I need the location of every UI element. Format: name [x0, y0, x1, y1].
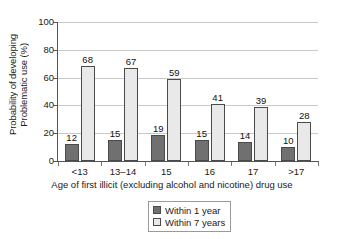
y-axis-tick-label: 80	[30, 45, 54, 55]
x-axis-tick-label: 13–14	[101, 166, 144, 177]
legend-label-within-1-year: Within 1 year	[165, 205, 220, 216]
bar-group: 1959	[145, 22, 188, 161]
legend-label-within-7-years: Within 7 years	[165, 217, 225, 228]
bar-within-7-years	[254, 107, 268, 161]
bar-group: 1028	[275, 22, 318, 161]
bar-group: 1567	[101, 22, 144, 161]
y-axis-tick-label: 20	[30, 128, 54, 138]
y-axis-tick-mark	[53, 78, 58, 79]
legend-swatch-icon-within-7-years	[153, 218, 161, 226]
bar-value-label: 67	[118, 57, 144, 67]
bar-within-7-years	[211, 104, 225, 161]
x-axis-tick-mark	[318, 162, 319, 166]
bar-value-label: 39	[248, 96, 274, 106]
y-axis-title-line-2: Problematic use (%)	[18, 43, 29, 127]
plot-area: 126815671959154114391028	[58, 22, 318, 161]
legend-item-within-7-years: Within 7 years	[153, 216, 225, 228]
x-axis-tick-label: >17	[275, 166, 318, 177]
y-axis-tick-mark	[53, 105, 58, 106]
bar-group: 1439	[231, 22, 274, 161]
x-axis-tick-label: 15	[145, 166, 188, 177]
bar-within-1-year	[65, 144, 79, 161]
bar-within-7-years	[124, 68, 138, 161]
y-axis-tick-label: 100	[30, 17, 54, 27]
x-axis-tick-label: <13	[58, 166, 101, 177]
bar-within-7-years	[81, 66, 95, 161]
y-axis-tick-label: 60	[30, 73, 54, 83]
bar-within-1-year	[108, 140, 122, 161]
y-axis-tick-mark	[53, 133, 58, 134]
bar-within-1-year	[281, 147, 295, 161]
y-axis-tick-labels: 020406080100	[30, 16, 54, 168]
legend-swatch-icon-within-1-year	[153, 206, 161, 214]
legend-item-within-1-year: Within 1 year	[153, 204, 225, 216]
bar-within-1-year	[238, 142, 252, 161]
x-axis-tick-label: 16	[188, 166, 231, 177]
x-axis-title: Age of first illicit (excluding alcohol …	[0, 179, 344, 191]
y-axis-title-line-1: Probability of developing	[7, 34, 18, 135]
y-axis-tick-label: 40	[30, 100, 54, 110]
bar-within-7-years	[167, 79, 181, 161]
bar-value-label: 59	[161, 68, 187, 78]
bar-within-7-years	[297, 122, 311, 161]
x-axis-tick-label: 17	[231, 166, 274, 177]
bar-value-label: 28	[291, 111, 317, 121]
x-axis-tick-labels: <1313–14151617>17	[58, 166, 318, 179]
bar-within-1-year	[195, 140, 209, 161]
bar-group: 1268	[58, 22, 101, 161]
y-axis-tick-mark	[53, 50, 58, 51]
y-axis-tick-mark	[53, 22, 58, 23]
bar-value-label: 68	[75, 55, 101, 65]
chart-legend: Within 1 year Within 7 years	[148, 201, 231, 232]
bar-value-label: 41	[205, 93, 231, 103]
y-axis-tick-label: 0	[30, 156, 54, 166]
bar-group: 1541	[188, 22, 231, 161]
bar-chart: Probability of developing Problematic us…	[0, 0, 344, 239]
bar-within-1-year	[151, 135, 165, 161]
